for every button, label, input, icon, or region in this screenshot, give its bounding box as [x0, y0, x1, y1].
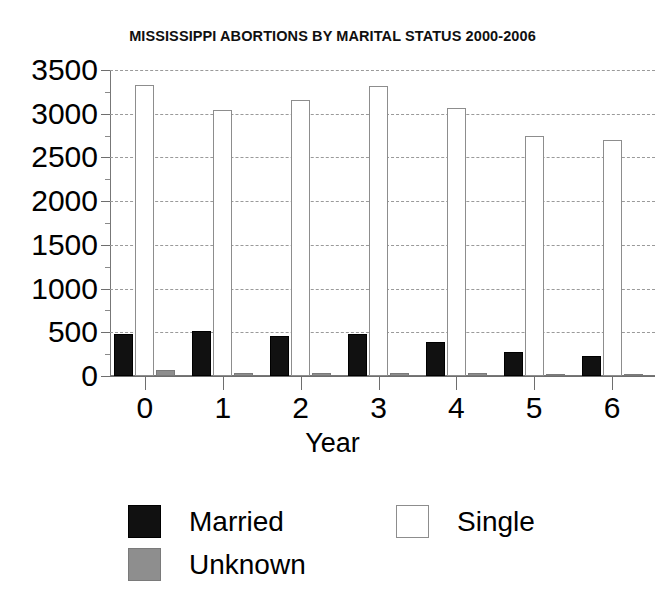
bar-group	[348, 70, 409, 376]
legend-swatch-married-icon	[128, 505, 161, 538]
bar-married-year-0	[114, 334, 133, 376]
x-axis-tick-label: 2	[292, 393, 309, 423]
x-axis-tick	[612, 376, 613, 390]
y-axis-minor-tick	[105, 223, 110, 224]
bar-single-year-5	[525, 136, 544, 376]
y-axis-minor-tick	[105, 354, 110, 355]
y-axis-minor-tick	[105, 179, 110, 180]
x-axis-tick	[145, 376, 146, 390]
legend-swatch-single-icon	[396, 505, 429, 538]
bar-single-year-6	[603, 140, 622, 376]
chart-title: MISSISSIPPI ABORTIONS BY MARITAL STATUS …	[0, 28, 665, 44]
legend-label-married: Married	[189, 508, 284, 536]
y-axis-tick	[101, 70, 110, 71]
legend-swatch-unknown-icon	[128, 548, 161, 581]
bar-group	[504, 70, 565, 376]
y-axis-tick	[101, 157, 110, 158]
y-axis-tick-label: 1500	[31, 230, 98, 260]
y-axis-tick	[101, 201, 110, 202]
x-axis-tick	[456, 376, 457, 390]
y-axis-tick-label: 3500	[31, 55, 98, 85]
y-axis-labels: 0500100015002000250030003500	[0, 70, 98, 376]
y-axis-tick	[101, 245, 110, 246]
bar-married-year-1	[192, 331, 211, 376]
x-axis-title: Year	[0, 428, 665, 459]
bar-single-year-4	[447, 108, 466, 376]
y-axis-minor-tick	[105, 267, 110, 268]
y-axis-tick	[101, 332, 110, 333]
bar-group	[270, 70, 331, 376]
bar-married-year-4	[426, 342, 445, 376]
x-axis-tick	[379, 376, 380, 390]
chart-legend: Married Single Unknown	[128, 505, 598, 585]
y-axis-tick-label: 0	[81, 361, 98, 391]
bar-single-year-2	[291, 100, 310, 376]
y-axis-tick-label: 3000	[31, 99, 98, 129]
bar-married-year-6	[582, 356, 601, 376]
y-axis-tick	[101, 114, 110, 115]
y-axis-tick	[101, 376, 110, 377]
legend-label-unknown: Unknown	[189, 551, 306, 579]
bar-group	[582, 70, 643, 376]
y-axis-minor-tick	[105, 92, 110, 93]
x-axis-tick-label: 6	[604, 393, 621, 423]
y-axis-tick	[101, 289, 110, 290]
y-axis-tick-label: 2000	[31, 186, 98, 216]
bar-single-year-1	[213, 110, 232, 376]
x-axis-tick	[534, 376, 535, 390]
y-axis-minor-tick	[105, 310, 110, 311]
chart-figure: MISSISSIPPI ABORTIONS BY MARITAL STATUS …	[0, 0, 665, 589]
bar-married-year-3	[348, 334, 367, 376]
y-axis-minor-tick	[105, 136, 110, 137]
legend-entry-single: Single	[396, 505, 535, 538]
bar-married-year-2	[270, 336, 289, 376]
legend-entry-married: Married	[128, 505, 284, 538]
plot-area	[110, 70, 655, 376]
x-axis-tick	[223, 376, 224, 390]
x-axis-tick-label: 5	[526, 393, 543, 423]
x-axis-tick-label: 0	[137, 393, 154, 423]
bar-group	[192, 70, 253, 376]
bar-single-year-0	[135, 85, 154, 376]
x-axis-tick-label: 1	[214, 393, 231, 423]
legend-entry-unknown: Unknown	[128, 548, 306, 581]
y-axis-tick-label: 500	[48, 317, 98, 347]
bar-group	[426, 70, 487, 376]
x-axis-tick-label: 4	[448, 393, 465, 423]
x-axis-tick	[301, 376, 302, 390]
y-axis-tick-label: 2500	[31, 142, 98, 172]
y-axis-tick-label: 1000	[31, 274, 98, 304]
bar-single-year-3	[369, 86, 388, 376]
bar-group	[114, 70, 175, 376]
legend-label-single: Single	[457, 508, 535, 536]
bar-married-year-5	[504, 352, 523, 376]
x-axis-tick-label: 3	[370, 393, 387, 423]
